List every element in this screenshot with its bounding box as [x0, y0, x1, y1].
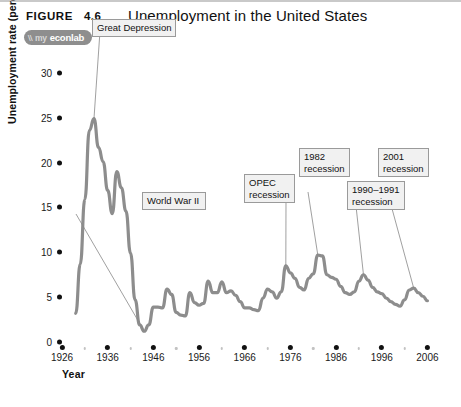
leader-line-recession-1990-1991 — [356, 206, 363, 275]
badge-mark-icon: \\ — [28, 33, 32, 43]
x-tick-value: 2006 — [416, 352, 438, 363]
callout-line-1: 1990–1991 — [352, 184, 400, 196]
x-tick-1986: 1986 — [325, 345, 347, 363]
x-tick-value: 1976 — [279, 352, 301, 363]
x-tick-value: 1966 — [234, 352, 256, 363]
callout-text: World War II — [147, 195, 201, 207]
figure-page: FIGURE 4.6 Unemployment in the United St… — [0, 0, 461, 407]
figure-label: FIGURE — [26, 10, 73, 22]
x-minor-tick-1971 — [266, 347, 269, 350]
callout-line-2: recession — [304, 163, 345, 175]
x-tick-2006: 2006 — [416, 345, 438, 363]
y-tick-20: 20 — [36, 157, 62, 168]
callout-text: Great Depression — [97, 22, 171, 34]
y-axis-label: Unemployment rate (percentage of labor f… — [6, 0, 18, 124]
callout-line-1: OPEC — [249, 177, 290, 189]
x-tick-dot — [334, 345, 339, 350]
x-tick-1976: 1976 — [279, 345, 301, 363]
x-tick-value: 1926 — [51, 352, 73, 363]
x-minor-tick-1981 — [312, 347, 315, 350]
x-axis: 192619361946195619661976198619962006 Yea… — [62, 342, 432, 388]
x-minor-tick-1991 — [358, 347, 361, 350]
x-tick-value: 1956 — [188, 352, 210, 363]
x-tick-dot — [379, 345, 384, 350]
callout-recession-2001: 2001recession — [378, 148, 429, 177]
y-tick-value: 20 — [36, 157, 52, 168]
callout-line-1: 2001 — [383, 151, 424, 163]
x-tick-1926: 1926 — [51, 345, 73, 363]
y-tick-value: 25 — [36, 112, 52, 123]
callout-recession-1990-1991: 1990–1991recession — [347, 181, 405, 210]
x-tick-dot — [242, 345, 247, 350]
y-tick-5: 5 — [36, 292, 62, 303]
callout-world-war-ii: World War II — [142, 192, 206, 210]
x-tick-1966: 1966 — [234, 345, 256, 363]
callout-line-2: recession — [352, 196, 400, 208]
y-tick-value: 30 — [36, 67, 52, 78]
x-tick-dot — [60, 345, 65, 350]
chart-plot-area: Unemployment rate (percentage of labor f… — [62, 64, 432, 342]
x-tick-1956: 1956 — [188, 345, 210, 363]
myeconlab-badge: \\ my econlab — [24, 30, 92, 45]
x-tick-1996: 1996 — [371, 345, 393, 363]
y-tick-15: 15 — [36, 202, 62, 213]
x-minor-tick-1961 — [221, 347, 224, 350]
x-tick-value: 1996 — [371, 352, 393, 363]
x-tick-dot — [105, 345, 110, 350]
x-tick-value: 1986 — [325, 352, 347, 363]
leader-line-recession-1982 — [308, 192, 318, 255]
y-tick-30: 30 — [36, 67, 62, 78]
callout-recession-1982: 1982recession — [299, 148, 350, 177]
y-tick-25: 25 — [36, 112, 62, 123]
x-tick-dot — [288, 345, 293, 350]
y-tick-value: 5 — [36, 292, 52, 303]
x-minor-tick-1951 — [175, 347, 178, 350]
x-minor-tick-1941 — [129, 347, 132, 350]
x-minor-tick-2001 — [403, 347, 406, 350]
x-tick-value: 1936 — [97, 352, 119, 363]
x-tick-1936: 1936 — [97, 345, 119, 363]
callout-line-2: recession — [383, 163, 424, 175]
x-tick-dot — [151, 345, 156, 350]
callout-line-1: 1982 — [304, 151, 345, 163]
y-tick-value: 15 — [36, 202, 52, 213]
y-tick-10: 10 — [36, 247, 62, 258]
x-tick-dot — [197, 345, 202, 350]
x-tick-value: 1946 — [142, 352, 164, 363]
callout-opec-recession: OPECrecession — [244, 174, 295, 203]
badge-word: econlab — [50, 32, 85, 43]
x-tick-1946: 1946 — [142, 345, 164, 363]
callout-great-depression: Great Depression — [92, 19, 176, 37]
x-axis-label: Year — [62, 368, 85, 380]
leader-line-world-war-ii — [76, 214, 144, 331]
y-tick-value: 0 — [36, 337, 52, 348]
y-tick-value: 10 — [36, 247, 52, 258]
x-tick-dot — [425, 345, 430, 350]
x-minor-tick-1931 — [84, 347, 87, 350]
callout-line-2: recession — [249, 189, 290, 201]
badge-prefix: my — [35, 33, 47, 43]
